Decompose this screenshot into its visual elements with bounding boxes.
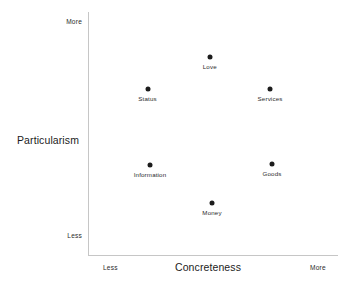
data-point-label: Information (134, 171, 167, 179)
plot-area: LoveStatusServicesInformationGoodsMoney (89, 12, 338, 255)
y-axis-low-label: Less (67, 231, 82, 240)
data-point-label: Love (203, 63, 217, 71)
x-axis-low-label: Less (103, 263, 118, 272)
x-axis-title: Concreteness (175, 261, 241, 274)
data-point-marker (148, 163, 153, 168)
scatter-plot-figure: More Less Less More Particularism Concre… (0, 0, 348, 288)
x-axis-high-label: More (310, 263, 326, 272)
y-axis-high-label: More (66, 17, 82, 26)
data-point-marker (210, 200, 215, 205)
data-point-marker (145, 87, 150, 92)
data-point-label: Services (258, 95, 283, 103)
data-point-label: Money (202, 209, 221, 217)
data-point-marker (270, 162, 275, 167)
y-axis-title: Particularism (17, 134, 79, 147)
data-point-label: Status (138, 95, 156, 103)
data-point-marker (268, 87, 273, 92)
x-axis-line (88, 255, 338, 256)
data-point-label: Goods (263, 170, 282, 178)
data-point-marker (207, 54, 212, 59)
